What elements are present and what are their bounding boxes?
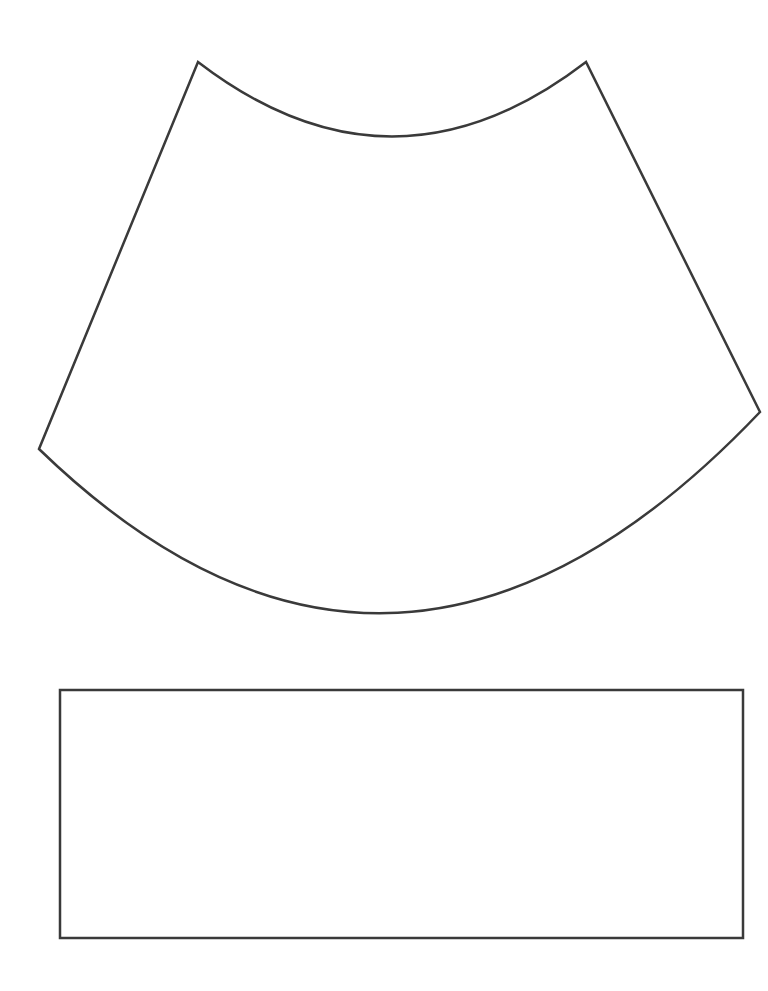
pattern-drawing (0, 0, 768, 991)
canvas-background (0, 0, 768, 991)
pattern-canvas (0, 0, 768, 991)
